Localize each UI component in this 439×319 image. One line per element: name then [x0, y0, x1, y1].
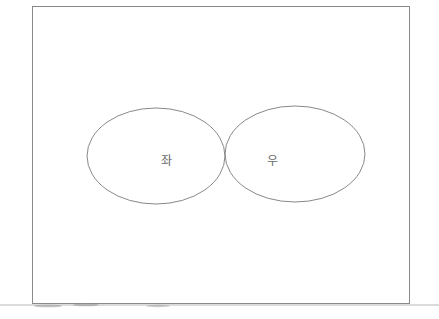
- scan-smudge: [34, 305, 62, 308]
- diagram-canvas: 좌 우: [0, 0, 439, 319]
- scan-smudge: [146, 305, 170, 307]
- diagram-svg: [0, 0, 439, 319]
- left-ellipse: [87, 108, 225, 204]
- right-label: 우: [267, 155, 278, 167]
- diagram-frame: [33, 7, 410, 304]
- right-ellipse: [225, 106, 365, 202]
- scan-smudge: [73, 304, 99, 307]
- left-label: 좌: [161, 155, 172, 167]
